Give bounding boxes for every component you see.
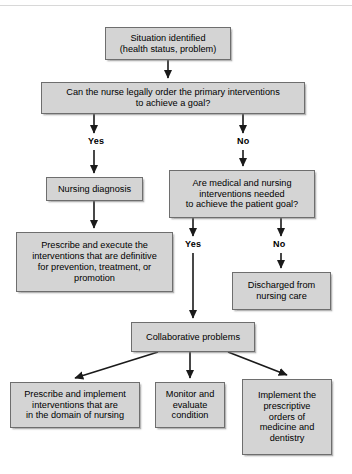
node-label: Collaborative problems (146, 332, 240, 343)
edge-collaborative-to-prescribe-implement (75, 352, 158, 378)
node-label: Are medical and nursing interventions ne… (186, 178, 298, 211)
branch-label-no-2: No (273, 239, 285, 249)
node-label: Can the nurse legally order the primary … (66, 87, 279, 109)
node-label: Discharged from nursing care (248, 280, 315, 302)
node-situation: Situation identified (health status, pro… (105, 27, 231, 60)
flowchart-canvas: Situation identified (health status, pro… (0, 0, 352, 474)
node-are-medical-and-nursing: Are medical and nursing interventions ne… (169, 170, 315, 218)
node-nursing-diagnosis: Nursing diagnosis (46, 177, 143, 201)
node-label: Prescribe and implement interventions th… (24, 389, 126, 422)
branch-label-yes-1: Yes (88, 136, 104, 146)
node-discharged: Discharged from nursing care (232, 272, 331, 310)
node-monitor-and-evaluate: Monitor and evaluate condition (155, 382, 225, 428)
node-label: Situation identified (health status, pro… (120, 33, 217, 55)
node-label: Prescribe and execute the interventions … (32, 240, 157, 283)
node-label: Implement the prescriptive orders of med… (258, 390, 316, 444)
edge-collaborative-to-implement-prescriptive (228, 352, 287, 375)
branch-label-yes-2: Yes (185, 239, 201, 249)
node-implement-the-prescriptive: Implement the prescriptive orders of med… (242, 379, 332, 455)
header-divider (0, 5, 352, 6)
node-can-nurse-legally-order: Can the nurse legally order the primary … (41, 82, 305, 114)
node-label: Monitor and evaluate condition (166, 389, 215, 422)
branch-label-no-1: No (237, 136, 249, 146)
node-prescribe-and-implement: Prescribe and implement interventions th… (10, 382, 140, 428)
node-collaborative-problems: Collaborative problems (131, 322, 255, 352)
node-prescribe-and-execute: Prescribe and execute the interventions … (16, 232, 173, 292)
node-label: Nursing diagnosis (58, 184, 131, 195)
